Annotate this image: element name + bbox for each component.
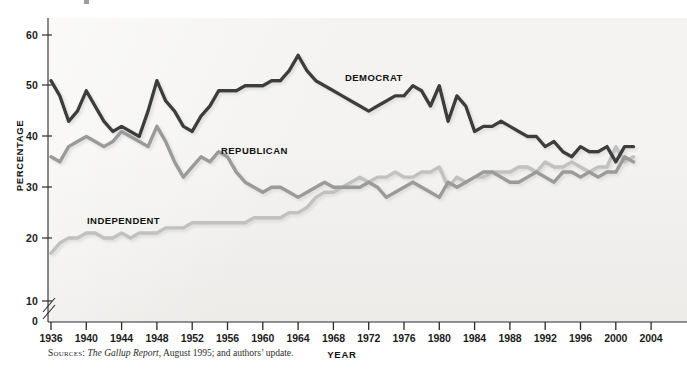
- x-tick-label-1980: 1980: [419, 333, 459, 344]
- series-label-independent: INDEPENDENT: [87, 215, 160, 226]
- source-kicker: Sources:: [48, 348, 85, 358]
- y-tick-label-20: 20: [12, 233, 38, 243]
- x-tick-label-1984: 1984: [455, 333, 495, 344]
- x-tick-label-2004: 2004: [631, 333, 671, 344]
- y-axis-ticks: [42, 35, 52, 301]
- x-tick-label-1988: 1988: [490, 333, 530, 344]
- party-identification-line-chart: 60 50 40 30 20 10 0 1936 1940 1944 1948 …: [0, 0, 687, 371]
- y-tick-label-0: 0: [12, 316, 38, 326]
- x-tick-label-1992: 1992: [525, 333, 565, 344]
- x-axis-title: YEAR: [297, 349, 387, 360]
- x-tick-label-1944: 1944: [102, 333, 142, 344]
- x-tick-label-1956: 1956: [208, 333, 248, 344]
- x-tick-label-1960: 1960: [243, 333, 283, 344]
- x-tick-label-1952: 1952: [172, 333, 212, 344]
- y-tick-label-10: 10: [12, 296, 38, 306]
- x-tick-label-1940: 1940: [66, 333, 106, 344]
- series-label-republican: REPUBLICAN: [221, 145, 288, 156]
- y-axis-title: PERCENTAGE: [14, 111, 25, 201]
- source-title: The Gallup Report,: [88, 348, 162, 358]
- x-tick-label-1936: 1936: [31, 333, 71, 344]
- source-note: Sources: The Gallup Report, August 1995;…: [48, 348, 293, 358]
- x-tick-label-1968: 1968: [313, 333, 353, 344]
- x-tick-label-1976: 1976: [384, 333, 424, 344]
- x-tick-label-1996: 1996: [561, 333, 601, 344]
- series-label-democrat: DEMOCRAT: [345, 72, 403, 83]
- y-tick-label-50: 50: [12, 80, 38, 90]
- y-tick-label-60: 60: [12, 30, 38, 40]
- series-line-independent: [51, 147, 633, 254]
- series-line-democrat: [51, 55, 633, 162]
- x-tick-label-1948: 1948: [137, 333, 177, 344]
- x-tick-label-1972: 1972: [349, 333, 389, 344]
- source-rest: August 1995; and authors’ update.: [161, 348, 293, 358]
- plot-svg: [0, 0, 687, 371]
- x-tick-label-1964: 1964: [278, 333, 318, 344]
- x-axis-ticks: [51, 322, 651, 330]
- x-tick-label-2000: 2000: [596, 333, 636, 344]
